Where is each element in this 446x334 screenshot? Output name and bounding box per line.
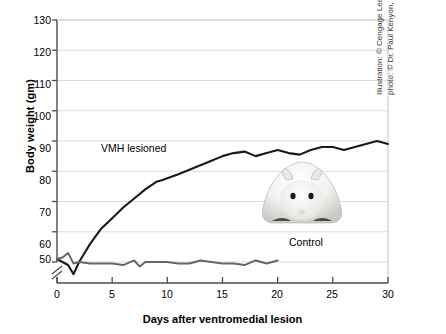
x-axis-ticks: [57, 277, 388, 283]
credit-line-1: Illustration: © Cengage Learning 2013;: [374, 0, 385, 95]
credit-line-2: photo: © Dr. Paul Kenyon, University of …: [385, 0, 396, 95]
obese-hamster-photo: [256, 160, 348, 226]
control-label: Control: [289, 236, 323, 248]
y-axis-ticks: [52, 20, 57, 262]
series-line-control: [57, 253, 278, 267]
credit-block: Illustration: © Cengage Learning 2013; p…: [374, 0, 396, 95]
figure-container: Body weight (gm) Days after ventromedial…: [0, 0, 446, 334]
vmh-lesioned-label: VMH lesioned: [101, 142, 166, 154]
